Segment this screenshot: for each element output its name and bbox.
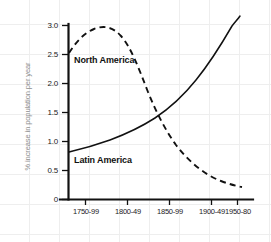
series-label-latin-america: Latin America <box>74 155 132 165</box>
plot-area <box>0 0 271 242</box>
y-tick-label-2-5: 2.5 <box>36 50 58 59</box>
y-tick-label-3-0: 3.0 <box>36 21 58 30</box>
x-tick-label-1750-99: 1750-99 <box>64 207 108 216</box>
y-tick-label-1-5: 1.5 <box>36 108 58 117</box>
x-tick-label-1950-80: 1950-80 <box>216 207 260 216</box>
x-tick-label-1850-99: 1850-99 <box>148 207 192 216</box>
series-line-latin-america <box>69 16 240 152</box>
population-growth-chart: 3.0 2.5 2.0 1.5 1.0 0.5 0 1750-99 1800-4… <box>0 0 271 242</box>
y-tick-label-0-5: 0.5 <box>36 166 58 175</box>
x-tick-label-1800-49: 1800-49 <box>106 207 150 216</box>
y-tick-label-0: 0 <box>36 195 58 204</box>
y-tick-marks <box>62 26 68 200</box>
y-tick-label-1-0: 1.0 <box>36 137 58 146</box>
y-axis-title: % increase in population per year <box>23 42 32 192</box>
y-tick-label-2-0: 2.0 <box>36 79 58 88</box>
series-label-north-america: North America <box>74 55 134 65</box>
